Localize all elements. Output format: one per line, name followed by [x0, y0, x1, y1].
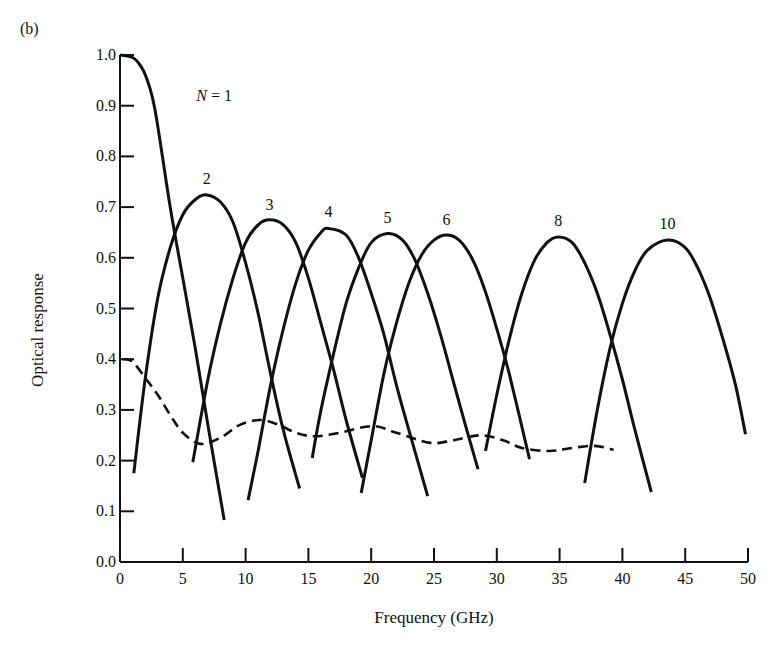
- curve-label: 2: [203, 170, 211, 187]
- y-tick-label: 0.3: [96, 401, 116, 418]
- y-tick-label: 0.5: [96, 300, 116, 317]
- line-chart: 051015202530354045500.00.10.20.30.40.50.…: [0, 0, 778, 647]
- curve-label: 3: [265, 196, 273, 213]
- y-tick-label: 0.6: [96, 249, 116, 266]
- curve-label: 6: [443, 211, 451, 228]
- x-tick-label: 50: [740, 570, 756, 587]
- y-tick-label: 0.2: [96, 452, 116, 469]
- axes: 051015202530354045500.00.10.20.30.40.50.…: [96, 46, 756, 587]
- y-tick-label: 0.0: [96, 553, 116, 570]
- y-tick-label: 0.1: [96, 502, 116, 519]
- curve-label: 8: [554, 212, 562, 229]
- y-tick-label: 0.4: [96, 350, 116, 367]
- y-tick-label: 0.8: [96, 147, 116, 164]
- y-tick-label: 0.7: [96, 198, 116, 215]
- x-tick-label: 10: [238, 570, 254, 587]
- curve-labels: N = 123456810: [195, 87, 675, 233]
- x-tick-label: 35: [552, 570, 568, 587]
- curve-label: 10: [660, 215, 676, 232]
- x-axis-label: Frequency (GHz): [374, 608, 493, 628]
- response-curve-8: [486, 237, 652, 492]
- response-curve-10: [585, 240, 746, 483]
- x-tick-label: 0: [116, 570, 124, 587]
- curve-label: 5: [384, 209, 392, 226]
- curve-label: 4: [324, 203, 332, 220]
- x-tick-label: 25: [426, 570, 442, 587]
- response-curve-4: [248, 228, 428, 500]
- x-tick-label: 40: [614, 570, 630, 587]
- x-tick-label: 20: [363, 570, 379, 587]
- curves: [120, 55, 746, 520]
- x-tick-label: 30: [489, 570, 505, 587]
- x-tick-label: 45: [677, 570, 693, 587]
- y-tick-label: 1.0: [96, 46, 116, 63]
- x-tick-label: 15: [300, 570, 316, 587]
- y-axis-label: Optical response: [28, 273, 48, 387]
- x-tick-label: 5: [179, 570, 187, 587]
- curve-label: N = 1: [195, 87, 232, 104]
- y-tick-label: 0.9: [96, 97, 116, 114]
